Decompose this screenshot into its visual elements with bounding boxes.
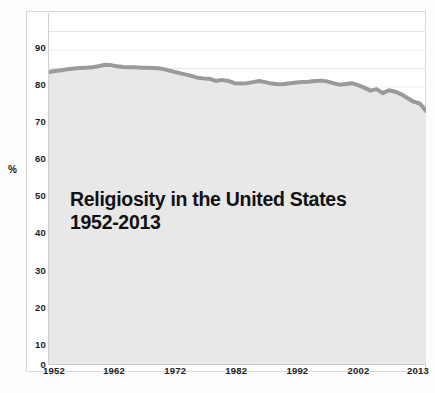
x-tick-label: 1992 (286, 366, 308, 376)
y-tick-label: 20 (2, 303, 46, 313)
y-tick-label: 60 (2, 155, 46, 165)
y-tick-label: 70 (2, 118, 46, 128)
x-tick-label: 1972 (164, 366, 186, 376)
x-axis-tick-labels: 1952 1962 1972 1982 1992 2002 2013 (48, 366, 426, 382)
y-tick-label: 30 (2, 266, 46, 276)
x-tick-label: 2013 (407, 366, 429, 376)
page-title: Religiosity in the United States 1952-20… (70, 188, 370, 233)
chart-root: 90 80 70 60 50 40 30 20 10 0 % 1952 1962… (0, 0, 435, 393)
y-axis-tick-labels: 90 80 70 60 50 40 30 20 10 0 (0, 13, 46, 365)
x-tick-label: 2002 (348, 366, 370, 376)
y-tick-label: 40 (2, 229, 46, 239)
x-tick-label: 1962 (103, 366, 125, 376)
y-tick-label: 10 (2, 340, 46, 350)
y-axis-unit-label: % (8, 164, 17, 175)
y-tick-label: 50 (2, 192, 46, 202)
chart-title-line2: 1952-2013 (70, 211, 370, 234)
x-tick-label: 1982 (225, 366, 247, 376)
y-tick-label: 80 (2, 80, 46, 90)
x-tick-label: 1952 (43, 366, 65, 376)
y-tick-label: 90 (2, 43, 46, 53)
chart-title-line1: Religiosity in the United States (70, 188, 346, 210)
y-tick-label: 0 (2, 360, 46, 370)
